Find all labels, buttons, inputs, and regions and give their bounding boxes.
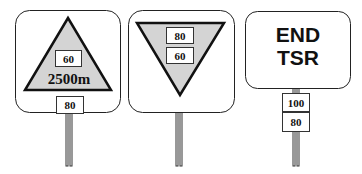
end-tsr-sign: END TSR 100 80 <box>246 12 351 167</box>
end-label: END <box>276 23 320 46</box>
pole <box>70 112 72 166</box>
speed-60-label: 60 <box>63 53 75 65</box>
pole <box>180 112 182 166</box>
signs-diagram: 60 2500m 80 80 60 END TSR 100 80 <box>0 0 362 174</box>
speed-restriction-sign: 80 60 <box>129 11 235 167</box>
pole <box>176 112 178 166</box>
plate-80-label: 80 <box>291 116 303 128</box>
pole <box>66 112 68 166</box>
speed-60-label: 60 <box>175 50 187 62</box>
plate-100-label: 100 <box>288 97 305 109</box>
speed-80-label: 80 <box>175 30 187 42</box>
tsr-label: TSR <box>277 46 319 69</box>
plate-80-label: 80 <box>65 99 77 111</box>
distance-label: 2500m <box>48 71 91 87</box>
warning-sign: 60 2500m 80 <box>16 11 121 167</box>
